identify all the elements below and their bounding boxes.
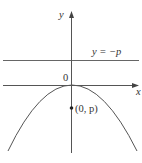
focus-label: (0, p) (75, 103, 98, 115)
y-axis-arrow-icon (69, 11, 74, 18)
x-axis-label: x (135, 86, 141, 97)
directrix-label: y = −p (91, 46, 121, 57)
y-axis-label: y (58, 9, 64, 20)
origin-label: 0 (63, 72, 68, 83)
parabola-diagram: y x 0 y = −p (0, p) (0, 0, 142, 163)
focus-point (70, 106, 74, 110)
parabola-curve (8, 85, 137, 151)
diagram-svg: y x 0 y = −p (0, p) (0, 0, 142, 163)
